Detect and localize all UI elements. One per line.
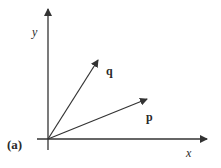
x-axis-label: x — [185, 146, 192, 160]
vector-p-label: p — [146, 110, 153, 124]
vector-p-arrow — [48, 99, 147, 139]
vector-q-arrow — [48, 60, 98, 139]
panel-label: (a) — [7, 137, 22, 152]
y-axis-label: y — [31, 25, 38, 39]
vector-diagram: y x q p (a) — [0, 0, 221, 168]
vector-q-label: q — [106, 64, 113, 78]
